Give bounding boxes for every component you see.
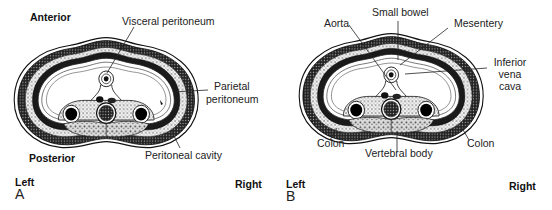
- label-ivc-line3: cava: [490, 80, 530, 92]
- label-colon-left: Colon: [317, 137, 344, 149]
- orientation-posterior: Posterior: [29, 152, 75, 164]
- label-parietal-peritoneum-line2: peritoneum: [206, 93, 259, 105]
- label-vertebral-body: Vertebral body: [365, 147, 433, 159]
- label-ivc-line2: vena: [490, 68, 530, 80]
- label-mesentery: Mesentery: [454, 17, 503, 29]
- panel-b-cross-section: [299, 34, 483, 144]
- orientation-right-b: Right: [509, 180, 536, 192]
- orientation-anterior: Anterior: [30, 11, 71, 23]
- label-small-bowel: Small bowel: [372, 6, 429, 18]
- label-visceral-peritoneum: Visceral peritoneum: [122, 15, 215, 27]
- label-peritoneal-cavity: Peritoneal cavity: [145, 149, 222, 161]
- cross-section-diagrams: [0, 0, 552, 210]
- panel-a-cross-section: [14, 38, 198, 148]
- label-ivc-line1: Inferior: [490, 56, 530, 68]
- panel-letter-b: B: [286, 189, 295, 203]
- orientation-right-a: Right: [235, 178, 262, 190]
- panel-letter-a: A: [15, 187, 24, 201]
- label-colon-right: Colon: [467, 137, 494, 149]
- label-aorta: Aorta: [324, 17, 349, 29]
- label-parietal-peritoneum-line1: Parietal: [214, 80, 250, 92]
